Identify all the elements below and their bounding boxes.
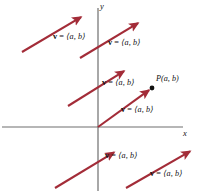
- point-p-label: P(a, b): [156, 75, 179, 83]
- vector-5-label-equals: =: [109, 151, 118, 160]
- vector-6-label: v = ⟨a, b⟩: [150, 170, 183, 178]
- vector-6-label-equals: =: [154, 169, 163, 178]
- vector-5-label-components: ⟨a, b⟩: [118, 151, 137, 160]
- vector-3-label-components: ⟨a, b⟩: [115, 78, 134, 87]
- vector-3-label-equals: =: [106, 78, 115, 87]
- point-p-dot: [150, 86, 155, 91]
- vectors-group: [22, 17, 190, 188]
- vector-middle-arrow: [68, 71, 124, 106]
- vector-4-label: v = ⟨a, b⟩: [121, 106, 154, 114]
- vector-1-label: v = ⟨a, b⟩: [53, 33, 86, 41]
- vector-3-label: v = ⟨a, b⟩: [102, 79, 135, 87]
- vector-2-label-components: ⟨a, b⟩: [121, 38, 140, 47]
- x-axis-label: x: [183, 129, 187, 138]
- vector-1-label-equals: =: [57, 32, 66, 41]
- vector-figure: y x P(a, b) v = ⟨a, b⟩ v = ⟨a, b⟩ v = ⟨a…: [0, 0, 207, 191]
- vector-6-label-components: ⟨a, b⟩: [163, 169, 182, 178]
- figure-canvas: [0, 0, 207, 191]
- vector-4-label-components: ⟨a, b⟩: [134, 105, 153, 114]
- vector-5-label: v = ⟨a, b⟩: [105, 152, 138, 160]
- axes-group: [2, 8, 183, 191]
- vector-1-label-components: ⟨a, b⟩: [66, 32, 85, 41]
- y-axis-label: y: [100, 2, 104, 11]
- vector-2-label: v = ⟨a, b⟩: [108, 39, 141, 47]
- vector-4-label-equals: =: [125, 105, 134, 114]
- vector-2-label-equals: =: [112, 38, 121, 47]
